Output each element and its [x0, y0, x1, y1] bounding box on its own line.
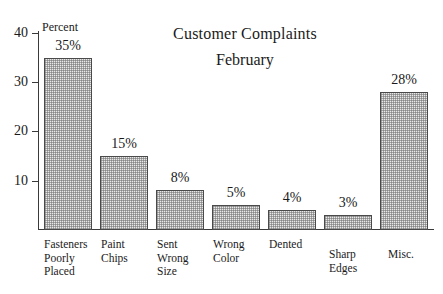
bar-4[interactable]: [268, 210, 316, 230]
category-label-0: Fasteners Poorly Placed: [44, 238, 100, 279]
bar-value-6: 28%: [380, 72, 428, 87]
bar-value-3: 5%: [212, 185, 260, 200]
bar-value-5: 3%: [324, 195, 372, 210]
category-label-4: Dented: [269, 238, 325, 252]
category-label-1: Paint Chips: [101, 238, 153, 265]
category-label-5: Sharp Edges: [329, 248, 381, 275]
bar-0[interactable]: [44, 58, 92, 230]
category-label-3: Wrong Color: [213, 238, 265, 265]
bar-3[interactable]: [212, 205, 260, 230]
bar-value-4: 4%: [268, 190, 316, 205]
bar-value-0: 35%: [44, 38, 92, 53]
category-label-2: Sent Wrong Size: [157, 238, 209, 279]
bar-2[interactable]: [156, 190, 204, 230]
bar-6[interactable]: [380, 92, 428, 230]
bar-1[interactable]: [100, 156, 148, 230]
bar-value-2: 8%: [156, 170, 204, 185]
bar-value-1: 15%: [100, 136, 148, 151]
bar-chart: Customer Complaints February Percent 40 …: [0, 0, 443, 294]
bar-5[interactable]: [324, 215, 372, 230]
category-label-6: Misc.: [388, 248, 436, 262]
